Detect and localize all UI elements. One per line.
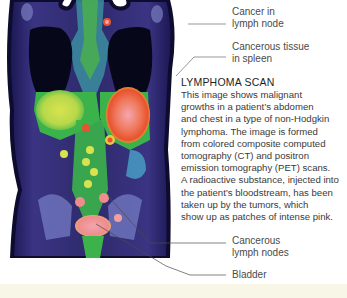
lymphoma-scan-image xyxy=(0,0,180,258)
caption-line: emission tomography (PET) scans. xyxy=(181,162,347,174)
annotation-bladder: Bladder xyxy=(232,269,266,281)
figure-page: Cancer in lymph node Cancerous tissue in… xyxy=(0,0,347,298)
caption-line: from colored composite computed xyxy=(181,138,347,150)
caption-line: show up as patches of intense pink. xyxy=(181,211,347,223)
annotation-line: Cancerous tissue xyxy=(232,41,309,53)
bottom-page-strip xyxy=(0,284,347,298)
caption-line: growths in a patient’s abdomen xyxy=(181,101,347,113)
annotation-cancerous-tissue-in-spleen: Cancerous tissue in spleen xyxy=(232,41,309,65)
annotation-line: Cancerous xyxy=(232,235,289,247)
caption-line: the patient’s bloodstream, has been xyxy=(181,187,347,199)
caption-line: tomography (CT) and positron xyxy=(181,150,347,162)
annotation-line: Bladder xyxy=(232,269,266,281)
annotation-line: lymph nodes xyxy=(232,247,289,259)
caption-line: This image shows malignant xyxy=(181,89,347,101)
caption-line: lymphoma. The image is formed xyxy=(181,126,347,138)
caption-line: taken up by the tumors, which xyxy=(181,199,347,211)
figure-caption: LYMPHOMA SCAN This image shows malignant… xyxy=(181,76,347,223)
annotation-line: lymph node xyxy=(232,18,284,30)
annotation-line: Cancer in xyxy=(232,6,284,18)
caption-line: and chest in a type of non-Hodgkin xyxy=(181,113,347,125)
annotation-cancer-in-lymph-node: Cancer in lymph node xyxy=(232,6,284,30)
annotation-cancerous-lymph-nodes: Cancerous lymph nodes xyxy=(232,235,289,259)
caption-line: A radioactive substance, injected into xyxy=(181,174,347,186)
caption-body: This image shows malignant growths in a … xyxy=(181,89,347,223)
annotation-line: in spleen xyxy=(232,53,309,65)
caption-title: LYMPHOMA SCAN xyxy=(181,76,347,89)
